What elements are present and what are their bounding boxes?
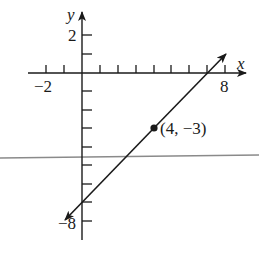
point-label: (4, −3) [160,119,206,138]
y-axis-label: y [65,5,75,24]
y-tick-label-2: 2 [68,26,77,45]
plotted-line-lower [65,128,154,220]
stray-horizontal-line [0,155,259,158]
point-4-neg3 [150,124,157,131]
coordinate-plane: y x 2 −2 8 −8 (4, −3) [0,0,259,258]
x-tick-label-neg2: −2 [34,77,52,96]
x-axis-label: x [236,54,245,73]
plotted-line [154,54,226,128]
y-tick-label-neg8: −8 [58,214,76,233]
x-tick-label-8: 8 [220,77,229,96]
x-axis-ticks [46,65,225,73]
